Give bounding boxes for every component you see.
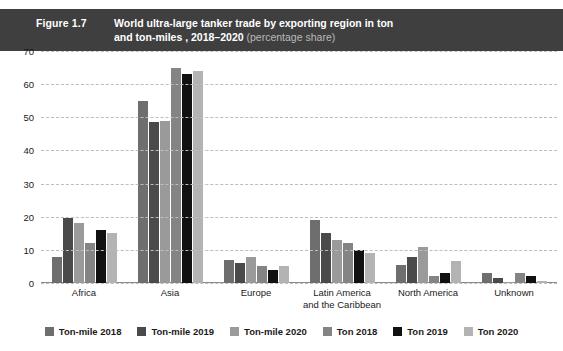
figure-title-line2: and ton-miles , 2018–2020 [114, 31, 244, 43]
x-axis-category-label: Africa [41, 287, 127, 310]
bar [182, 74, 192, 283]
y-axis-tick-label: 60 [23, 79, 34, 90]
chart-plot-area: 010203040506070 AfricaAsiaEuropeLatin Am… [0, 51, 563, 311]
bar [279, 266, 289, 283]
gridline [41, 51, 557, 52]
legend-swatch-icon [464, 327, 473, 336]
bar [96, 230, 106, 283]
x-axis-category-label: Latin Americaand the Caribbean [299, 287, 385, 310]
figure-header-banner: Figure 1.7 World ultra-large tanker trad… [0, 9, 563, 51]
bar [268, 270, 278, 283]
bar [257, 266, 267, 283]
bar [74, 223, 84, 283]
x-axis-category-label: North America [385, 287, 471, 310]
legend-swatch-icon [137, 327, 146, 336]
y-axis-tick-label: 40 [23, 145, 34, 156]
legend-swatch-icon [45, 327, 54, 336]
y-axis-tick-label: 50 [23, 112, 34, 123]
legend-label: Ton 2018 [337, 326, 377, 337]
legend-swatch-icon [323, 327, 332, 336]
bar [310, 220, 320, 283]
bar [451, 261, 461, 283]
gridline [41, 117, 557, 118]
x-axis-category-label-line: and the Caribbean [303, 299, 381, 310]
legend-label: Ton 2020 [478, 326, 518, 337]
figure-title: World ultra-large tanker trade by export… [114, 16, 393, 44]
legend-swatch-icon [230, 327, 239, 336]
bar [418, 247, 428, 283]
bar [429, 276, 439, 283]
y-axis-tick-label: 70 [23, 46, 34, 57]
legend-item[interactable]: Ton-mile 2020 [230, 326, 307, 337]
x-axis-category-label: Europe [213, 287, 299, 310]
gridline [41, 150, 557, 151]
legend-label: Ton-mile 2020 [244, 326, 307, 337]
bar [321, 233, 331, 283]
category-label-row: AfricaAsiaEuropeLatin Americaand the Car… [41, 287, 557, 310]
legend-label: Ton-mile 2019 [151, 326, 214, 337]
bar [396, 265, 406, 283]
y-axis: 010203040506070 [0, 51, 40, 283]
gridline [41, 250, 557, 251]
legend-item[interactable]: Ton 2020 [464, 326, 518, 337]
bar-group [385, 51, 471, 283]
bar [526, 276, 536, 283]
gridline [41, 217, 557, 218]
bar [235, 263, 245, 283]
bar [482, 273, 492, 283]
figure-title-line1: World ultra-large tanker trade by export… [114, 17, 393, 29]
legend-item[interactable]: Ton 2019 [393, 326, 447, 337]
bar-group [213, 51, 299, 283]
x-axis-category-label-line: Latin America [313, 287, 371, 298]
y-axis-tick-label: 10 [23, 244, 34, 255]
legend-swatch-icon [393, 327, 402, 336]
bar [515, 273, 525, 283]
bar-group [471, 51, 557, 283]
bar-group [299, 51, 385, 283]
bar [160, 121, 170, 283]
bar [224, 260, 234, 283]
x-axis-category-label-line: Europe [241, 287, 272, 298]
x-axis-category-label-line: Africa [72, 287, 96, 298]
legend-label: Ton-mile 2018 [59, 326, 122, 337]
x-axis-category-label-line: Unknown [494, 287, 534, 298]
bar-group [41, 51, 127, 283]
chart-legend: Ton-mile 2018Ton-mile 2019Ton-mile 2020T… [0, 326, 563, 337]
x-axis-category-label-line: North America [398, 287, 458, 298]
bar [440, 273, 450, 283]
bar [354, 250, 364, 283]
bar [246, 257, 256, 284]
bar [107, 233, 117, 283]
x-axis-category-label: Unknown [471, 287, 557, 310]
figure-header-content: Figure 1.7 World ultra-large tanker trad… [36, 16, 393, 44]
legend-item[interactable]: Ton-mile 2019 [137, 326, 214, 337]
y-axis-tick-label: 20 [23, 211, 34, 222]
figure-title-suffix: (percentage share) [247, 31, 336, 43]
bar-groups [41, 51, 557, 283]
gridline [41, 84, 557, 85]
figure-number: Figure 1.7 [36, 16, 114, 30]
bar [332, 240, 342, 283]
x-axis-category-label-line: Asia [161, 287, 179, 298]
gridline [41, 283, 557, 284]
legend-item[interactable]: Ton-mile 2018 [45, 326, 122, 337]
y-axis-tick-label: 30 [23, 178, 34, 189]
y-axis-tick-label: 0 [29, 278, 34, 289]
bar [52, 257, 62, 284]
legend-label: Ton 2019 [407, 326, 447, 337]
gridline [41, 184, 557, 185]
x-axis-category-label: Asia [127, 287, 213, 310]
bar [407, 257, 417, 284]
legend-item[interactable]: Ton 2018 [323, 326, 377, 337]
bar [149, 122, 159, 283]
bar [138, 101, 148, 283]
bar [193, 71, 203, 283]
bar-group [127, 51, 213, 283]
bar [365, 253, 375, 283]
chart-grid [41, 51, 557, 283]
